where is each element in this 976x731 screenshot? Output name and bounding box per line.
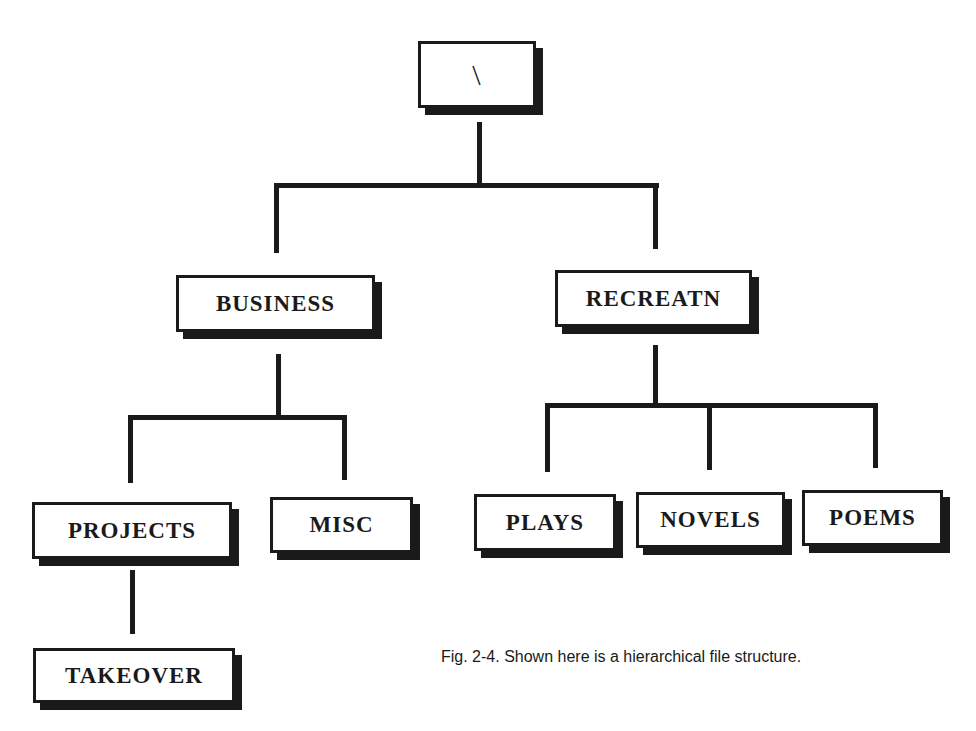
connector-to-business	[274, 183, 279, 253]
figure-caption: Fig. 2-4. Shown here is a hierarchical f…	[441, 648, 801, 666]
connector-to-plays	[545, 403, 550, 472]
connector-business-bar	[128, 415, 347, 420]
connector-projects-to-takeover	[130, 570, 135, 634]
node-recreatn: RECREATN	[555, 270, 752, 327]
node-projects: PROJECTS	[32, 502, 232, 559]
node-takeover: TAKEOVER	[33, 648, 235, 703]
node-poems: POEMS	[802, 490, 943, 546]
connector-to-poems	[873, 403, 878, 468]
connector-to-projects	[128, 415, 133, 483]
node-root: \	[418, 41, 536, 108]
node-business: BUSINESS	[176, 275, 375, 332]
node-novels: NOVELS	[636, 492, 785, 548]
node-plays: PLAYS	[474, 494, 616, 551]
connector-root-bar	[274, 183, 659, 188]
connector-recreatn-stem	[653, 345, 658, 408]
node-misc: MISC	[270, 497, 413, 553]
connector-to-novels	[707, 403, 712, 470]
connector-business-stem	[276, 354, 281, 418]
connector-to-recreatn	[653, 183, 658, 249]
connector-to-misc	[342, 415, 347, 480]
connector-root-stem	[477, 122, 482, 188]
